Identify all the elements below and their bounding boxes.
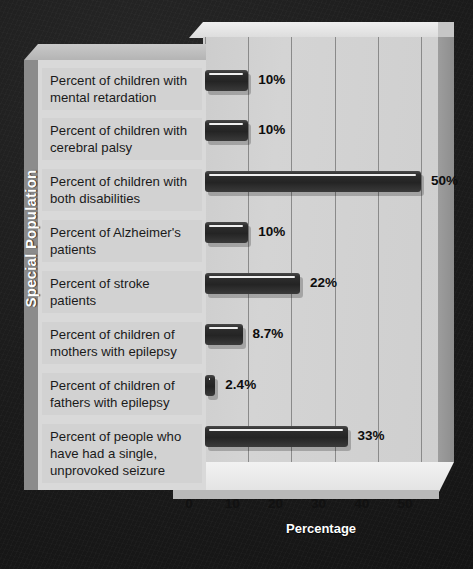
bar-label-line: cerebral palsy xyxy=(50,139,198,156)
y-axis-title: Special Population xyxy=(22,149,39,329)
bar-label-line: Percent of children with xyxy=(50,122,198,139)
bar-fill xyxy=(205,375,215,396)
bar-fill xyxy=(205,426,348,447)
bar-fill xyxy=(205,70,248,91)
bar-value-label-3: 10% xyxy=(258,224,285,239)
bar-2: 50% xyxy=(205,171,421,192)
x-tick-30: 30 xyxy=(306,496,332,511)
bar-label-3: Percent of Alzheimer'spatients xyxy=(42,220,202,262)
bar-label-line: mental retardation xyxy=(50,89,198,106)
x-tick-10: 10 xyxy=(219,496,245,511)
bar-fill xyxy=(205,222,248,243)
bar-label-line: have had a single, xyxy=(50,445,198,462)
bar-label-line: Percent of children of xyxy=(50,326,198,343)
bar-rows: Percent of children withmental retardati… xyxy=(0,0,473,569)
x-tick-0: 0 xyxy=(176,496,202,511)
bar-label-7: Percent of people whohave had a single,u… xyxy=(42,424,202,483)
bar-label-line: Percent of children with xyxy=(50,173,198,190)
bar-label-0: Percent of children withmental retardati… xyxy=(42,68,202,110)
x-tick-50: 50 xyxy=(392,496,418,511)
bar-fill xyxy=(205,324,243,345)
bar-1: 10% xyxy=(205,120,248,141)
bar-label-line: patients xyxy=(50,241,198,258)
bar-label-2: Percent of children withboth disabilitie… xyxy=(42,169,202,211)
bar-fill xyxy=(205,171,421,192)
bar-value-label-4: 22% xyxy=(310,275,337,290)
bar-label-line: Percent of stroke xyxy=(50,275,198,292)
bar-fill xyxy=(205,273,300,294)
bar-label-line: patients xyxy=(50,292,198,309)
bar-5: 8.7% xyxy=(205,324,243,345)
bar-label-line: unprovoked seizure xyxy=(50,462,198,479)
bar-label-line: both disabilities xyxy=(50,190,198,207)
bar-0: 10% xyxy=(205,70,248,91)
horizontal-bar-chart: Percent of children withmental retardati… xyxy=(0,0,473,569)
bar-label-line: Percent of children of xyxy=(50,377,198,394)
bar-label-line: fathers with epilepsy xyxy=(50,394,198,411)
x-tick-20: 20 xyxy=(262,496,288,511)
bar-value-label-1: 10% xyxy=(258,122,285,137)
bar-6: 2.4% xyxy=(205,375,215,396)
bar-label-6: Percent of children offathers with epile… xyxy=(42,373,202,415)
bar-fill xyxy=(205,120,248,141)
bar-label-5: Percent of children ofmothers with epile… xyxy=(42,322,202,364)
bar-value-label-6: 2.4% xyxy=(225,377,256,392)
bar-value-label-0: 10% xyxy=(258,72,285,87)
x-tick-40: 40 xyxy=(349,496,375,511)
bar-3: 10% xyxy=(205,222,248,243)
bar-label-1: Percent of children withcerebral palsy xyxy=(42,118,202,160)
bar-label-4: Percent of strokepatients xyxy=(42,271,202,313)
bar-label-line: mothers with epilepsy xyxy=(50,343,198,360)
bar-label-line: Percent of Alzheimer's xyxy=(50,224,198,241)
bar-value-label-5: 8.7% xyxy=(253,326,284,341)
bar-7: 33% xyxy=(205,426,348,447)
x-axis-title: Percentage xyxy=(286,521,356,536)
bar-label-line: Percent of people who xyxy=(50,428,198,445)
bar-value-label-7: 33% xyxy=(358,428,385,443)
bar-label-line: Percent of children with xyxy=(50,72,198,89)
bar-value-label-2: 50% xyxy=(431,173,458,188)
bar-4: 22% xyxy=(205,273,300,294)
